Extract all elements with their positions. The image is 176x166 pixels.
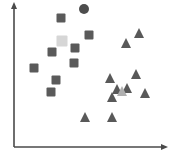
- scatter-plot-figure: [0, 0, 176, 166]
- data-point-circle: [79, 4, 89, 14]
- data-point-square: [52, 76, 61, 85]
- data-point-triangle: [107, 92, 117, 102]
- data-point-square: [48, 48, 57, 57]
- data-point-square: [47, 88, 56, 97]
- data-point-square: [70, 59, 79, 68]
- data-point-triangle: [131, 69, 141, 79]
- data-point-triangle: [107, 112, 117, 122]
- data-point-triangle: [117, 86, 127, 96]
- data-point-triangle: [121, 38, 131, 48]
- data-point-square: [30, 64, 39, 73]
- data-point-square: [57, 36, 68, 47]
- data-point-square: [57, 14, 66, 23]
- data-point-square: [85, 31, 94, 40]
- data-point-triangle: [134, 28, 144, 38]
- data-point-triangle: [80, 112, 90, 122]
- data-point-triangle: [105, 73, 115, 83]
- data-point-triangle: [140, 88, 150, 98]
- plot-area: [0, 0, 176, 166]
- data-point-square: [71, 44, 80, 53]
